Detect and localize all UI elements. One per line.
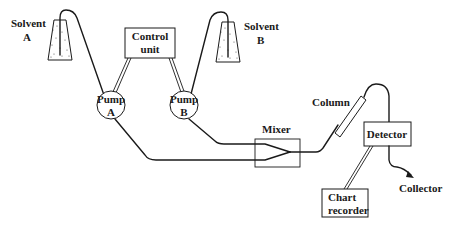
mixer-label: Mixer (262, 123, 291, 135)
collector-label: Collector (399, 182, 442, 194)
detector-label: Detector (367, 128, 407, 140)
control-unit-label: Control (132, 30, 168, 42)
chart-recorder-label-2: recorder (328, 204, 369, 216)
column-label: Column (312, 96, 350, 108)
solvent-b-label-letter: B (257, 34, 265, 46)
solvent-b-label: Solvent (244, 20, 279, 32)
pump-a-label: Pump (97, 93, 125, 105)
pump-a-label-letter: A (107, 106, 115, 118)
hplc-diagram: Solvent A Solvent B Control unit Pump A … (0, 0, 452, 228)
solvent-a-label: Solvent (11, 17, 46, 29)
tube-mixer-to-column (290, 125, 338, 152)
signal-detector-to-recorder (344, 146, 373, 189)
signal-control-to-pump-a (112, 58, 131, 95)
chart-recorder-label: Chart (328, 191, 356, 203)
signal-control-to-pump-b (169, 58, 185, 95)
solvent-a-label-letter: A (23, 31, 31, 43)
mixer-box (255, 139, 300, 167)
tube-detector-to-collector (389, 146, 411, 175)
control-unit-label-2: unit (141, 43, 160, 55)
tube-column-to-detector (364, 84, 389, 122)
pump-b-label-letter: B (180, 106, 188, 118)
pump-b-label: Pump (170, 93, 198, 105)
